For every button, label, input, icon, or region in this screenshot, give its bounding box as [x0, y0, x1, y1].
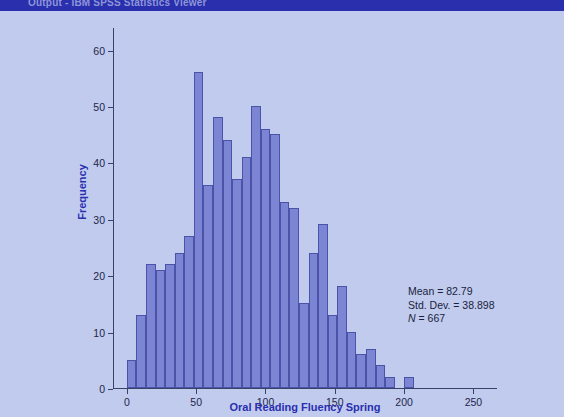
- x-tick: [335, 389, 336, 394]
- histogram-bar: [299, 303, 309, 388]
- x-tick: [127, 389, 128, 394]
- y-tick: 40: [108, 163, 113, 164]
- histogram-bar: [213, 117, 223, 388]
- histogram-bar: [337, 286, 347, 388]
- x-axis-title: Oral Reading Fluency Spring: [113, 401, 497, 413]
- y-tick-label: 40: [93, 157, 105, 169]
- y-tick: 0: [108, 389, 113, 390]
- histogram-bar: [127, 360, 137, 388]
- y-tick: 20: [108, 276, 113, 277]
- statistics-annotation: Mean = 82.79 Std. Dev. = 38.898 N = 667: [408, 285, 495, 326]
- histogram-bar: [156, 270, 166, 388]
- histogram-bar: [376, 365, 386, 388]
- mean-label: Mean = 82.79: [408, 285, 495, 299]
- y-tick-label: 60: [93, 45, 105, 57]
- histogram-chart: 0102030405060 050100150200250 Frequency …: [0, 11, 564, 417]
- histogram-bar: [270, 134, 280, 388]
- n-symbol: N: [408, 312, 416, 324]
- y-tick-label: 10: [93, 327, 105, 339]
- histogram-bar: [280, 202, 290, 388]
- histogram-bar: [328, 315, 338, 388]
- n-value: = 667: [416, 312, 446, 324]
- y-axis-title: Frequency: [76, 164, 88, 220]
- histogram-bar: [347, 332, 357, 388]
- y-tick: 10: [108, 333, 113, 334]
- std-dev-label: Std. Dev. = 38.898: [408, 299, 495, 313]
- x-tick: [265, 389, 266, 394]
- histogram-bar: [318, 224, 328, 388]
- n-label: N = 667: [408, 312, 495, 326]
- histogram-bar: [404, 377, 414, 388]
- histogram-bar: [309, 253, 319, 388]
- plot-area: 0102030405060 050100150200250: [113, 28, 497, 389]
- x-tick: [473, 389, 474, 394]
- histogram-bar: [165, 264, 175, 388]
- y-tick-label: 50: [93, 101, 105, 113]
- histogram-bar: [356, 354, 366, 388]
- histogram-bar: [289, 208, 299, 389]
- histogram-bar: [203, 185, 213, 388]
- histogram-bar: [261, 129, 271, 388]
- x-tick: [196, 389, 197, 394]
- y-tick-label: 0: [99, 383, 105, 395]
- histogram-bar: [146, 264, 156, 388]
- histogram-bar: [136, 315, 146, 388]
- y-tick: 30: [108, 220, 113, 221]
- histogram-bar: [194, 72, 204, 388]
- y-tick: 60: [108, 51, 113, 52]
- histogram-bar: [184, 236, 194, 388]
- x-tick: [404, 389, 405, 394]
- histogram-bar: [251, 106, 261, 388]
- window-title-bar: Output - IBM SPSS Statistics Viewer: [0, 0, 564, 11]
- y-tick-label: 30: [93, 214, 105, 226]
- histogram-bar: [223, 140, 233, 388]
- spss-output-window: Output - IBM SPSS Statistics Viewer 0102…: [0, 0, 564, 417]
- y-tick: 50: [108, 107, 113, 108]
- histogram-bar: [385, 377, 395, 388]
- histogram-bar: [242, 157, 252, 388]
- histogram-bar: [366, 349, 376, 388]
- histogram-bar: [232, 179, 242, 388]
- histogram-bar: [175, 253, 185, 388]
- histogram-bars: [113, 28, 497, 389]
- y-tick-label: 20: [93, 270, 105, 282]
- window-title: Output - IBM SPSS Statistics Viewer: [28, 0, 207, 8]
